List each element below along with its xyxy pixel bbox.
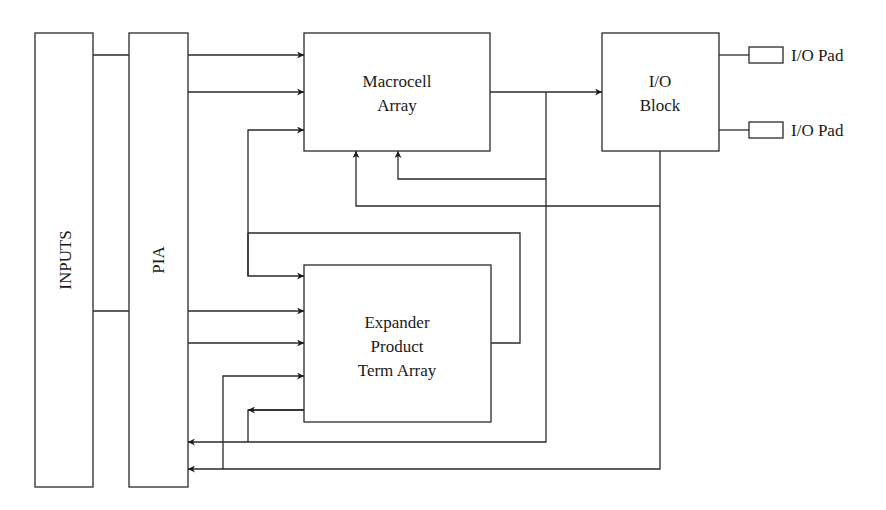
expander-label-line2: Product [371, 337, 424, 356]
pia-label: PIA [149, 246, 168, 274]
io-pad-1-label: I/O Pad [791, 46, 844, 65]
io-block: I/O Block [602, 33, 719, 151]
expander-self-feedback-wire [248, 410, 304, 442]
expander-bus-to-macrocell [248, 130, 304, 276]
macrocell-label-line1: Macrocell [363, 72, 432, 91]
pia-block: PIA [129, 33, 188, 487]
macrocell-label-line2: Array [377, 96, 417, 115]
io-block-label-line1: I/O [649, 72, 672, 91]
inputs-label: INPUTS [56, 230, 75, 290]
expander-label-line3: Term Array [358, 361, 437, 380]
expander-product-term-array-block: Expander Product Term Array [304, 265, 491, 422]
io-to-expander-wire [223, 376, 304, 469]
macrocell-self-feedback-wire [398, 151, 546, 179]
cpld-block-diagram: INPUTS PIA Macrocell Array I/O Block Exp… [0, 0, 886, 510]
inputs-block: INPUTS [35, 33, 93, 487]
macrocell-array-block: Macrocell Array [304, 33, 490, 151]
io-pad-2-label: I/O Pad [791, 121, 844, 140]
expander-bus-to-expander [248, 233, 304, 276]
io-block-label-line2: Block [640, 96, 681, 115]
io-pad-2: I/O Pad [719, 121, 844, 140]
expander-label-line1: Expander [364, 313, 429, 332]
io-pad-1: I/O Pad [719, 46, 844, 65]
